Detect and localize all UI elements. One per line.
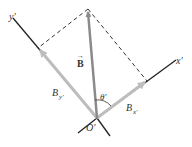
y-prime-axis-extension [97, 118, 110, 136]
dashed-projection-x [88, 9, 147, 81]
component-vector-y [40, 50, 97, 118]
component-x-subscript: x′ [132, 108, 138, 116]
angle-label: θ′ [100, 92, 107, 102]
component-y-label: B [52, 87, 58, 98]
component-x-label: B [126, 102, 132, 113]
component-y-subscript: y′ [58, 93, 64, 101]
origin-label: O′ [86, 122, 96, 133]
y-axis-label: y′ [8, 11, 16, 22]
dashed-projection-y [38, 9, 88, 48]
vector-b [88, 12, 97, 118]
vector-diagram: y′ x′ B → B y′ B x′ θ′ O′ [0, 0, 192, 147]
vector-b-arrow: → [77, 52, 84, 60]
x-axis-label: x′ [175, 55, 183, 66]
